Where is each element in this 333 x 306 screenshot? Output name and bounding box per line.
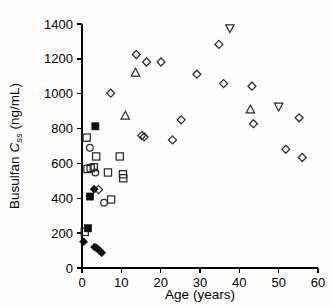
data-point — [220, 80, 228, 88]
data-point — [108, 196, 115, 203]
y-tick-label: 400 — [51, 191, 73, 206]
data-point — [246, 105, 254, 113]
data-point — [143, 58, 151, 66]
data-point — [92, 123, 99, 130]
data-point — [80, 238, 88, 246]
data-point — [93, 153, 100, 160]
y-tick-label: 1400 — [44, 17, 73, 32]
data-point — [116, 153, 123, 160]
y-tick-label: 1000 — [44, 86, 73, 101]
chart-figure: 02004006008001000120014000102030405060 A… — [0, 0, 333, 306]
tick-labels-group: 02004006008001000120014000102030405060 — [44, 17, 325, 291]
x-tick-label: 60 — [311, 275, 325, 290]
data-point — [157, 58, 165, 66]
data-point — [177, 116, 185, 124]
y-tick-label: 0 — [66, 261, 73, 276]
y-axis-title-prefix: Busulfan — [7, 153, 22, 209]
data-point — [101, 199, 108, 206]
x-tick-label: 50 — [271, 275, 285, 290]
data-point — [193, 70, 201, 78]
data-points-group — [80, 25, 307, 257]
data-point — [132, 51, 140, 59]
scatter-plot: 02004006008001000120014000102030405060 A… — [0, 0, 333, 306]
y-tick-label: 1200 — [44, 51, 73, 66]
series-open-square — [81, 134, 127, 235]
x-tick-label: 0 — [78, 275, 85, 290]
data-point — [92, 169, 99, 176]
data-point — [131, 68, 139, 76]
data-point — [226, 25, 234, 33]
data-point — [121, 111, 129, 119]
data-point — [87, 144, 94, 151]
series-filled-square — [84, 123, 98, 232]
data-point — [104, 169, 111, 176]
data-point — [215, 40, 223, 48]
data-point — [83, 134, 90, 141]
data-point — [282, 145, 290, 153]
x-axis-title: Age (years) — [165, 287, 235, 302]
x-tick-label: 10 — [114, 275, 128, 290]
y-tick-label: 200 — [51, 226, 73, 241]
svg-text:Busulfan Css (ng/mL): Busulfan Css (ng/mL) — [7, 83, 24, 209]
data-point — [107, 89, 115, 97]
data-point — [295, 114, 303, 122]
y-axis-title-units: (ng/mL) — [7, 83, 22, 133]
y-tick-label: 800 — [51, 121, 73, 136]
y-axis-title-symbol: C — [7, 143, 22, 153]
axes-group — [82, 24, 318, 268]
series-open-triangle-up — [121, 68, 254, 119]
y-axis-title: Busulfan Css (ng/mL) — [7, 83, 24, 209]
data-point — [298, 154, 306, 162]
series-open-triangle-down — [226, 25, 283, 111]
data-point — [168, 136, 176, 144]
y-tick-label: 600 — [51, 156, 73, 171]
y-axis-title-subscript: ss — [13, 133, 24, 143]
data-point — [248, 82, 256, 90]
data-point — [274, 103, 282, 111]
data-point — [86, 193, 93, 200]
data-point — [84, 225, 91, 232]
data-point — [249, 120, 257, 128]
